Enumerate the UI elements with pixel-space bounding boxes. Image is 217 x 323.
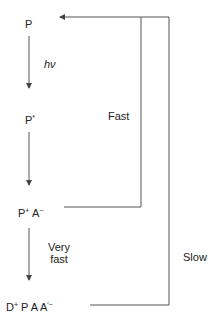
very-fast-line2: fast xyxy=(44,253,74,265)
state-charge-sep-1: P+ A− xyxy=(18,207,43,219)
state-excited: P* xyxy=(25,114,35,126)
a-sup: − xyxy=(39,207,43,214)
p-sup: + xyxy=(25,207,29,214)
d-label: D xyxy=(6,301,14,313)
d-sup: + xyxy=(14,301,18,308)
label-slow: Slow xyxy=(183,251,207,263)
fast-return-path xyxy=(64,17,141,207)
diagram-lines xyxy=(0,0,217,323)
label-very-fast: Very fast xyxy=(44,241,74,265)
paa-label: P A A xyxy=(21,301,47,313)
state-ground: P xyxy=(25,18,32,30)
slow-return-path xyxy=(60,17,169,305)
very-fast-line1: Very xyxy=(44,241,74,253)
label-excitation: hν xyxy=(44,58,56,70)
state-ground-label: P xyxy=(25,18,32,30)
state-excited-sup: * xyxy=(32,114,35,121)
a-prime-sup: ′− xyxy=(47,301,52,308)
label-fast: Fast xyxy=(108,110,129,122)
state-charge-sep-2: D+ P A A′− xyxy=(6,301,53,313)
